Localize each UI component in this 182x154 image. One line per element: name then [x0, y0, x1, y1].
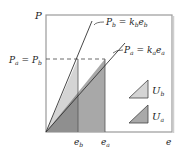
stiffness-energy-diagram: P Pb = kbeb Pa = kaea Pa = Pb eb ea e Ub…	[0, 0, 182, 154]
equation-a-label: Pa = kaea	[123, 45, 165, 56]
x-axis-label: e	[166, 137, 171, 147]
equal-load-label: Pa = Pb	[8, 55, 42, 66]
tick-ea: ea	[101, 137, 110, 148]
tick-eb: eb	[74, 137, 83, 148]
equation-b-label: Pb = kbeb	[105, 17, 148, 28]
y-axis-label: P	[34, 10, 42, 21]
